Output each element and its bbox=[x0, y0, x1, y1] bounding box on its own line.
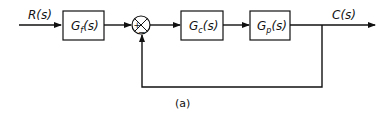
feedback-path bbox=[142, 25, 322, 87]
output-label: C(s) bbox=[332, 8, 356, 22]
block-gp-label: Gp(s) bbox=[257, 19, 287, 35]
input-label: R(s) bbox=[28, 8, 52, 22]
summing-junction: + − bbox=[132, 16, 150, 37]
block-gf-label: Gf(s) bbox=[71, 19, 99, 35]
figure-caption: (a) bbox=[175, 97, 190, 110]
block-diagram: R(s) Gf(s) + − Gc(s) Gp(s) C(s) (a) bbox=[0, 0, 382, 114]
block-gc-label: Gc(s) bbox=[189, 19, 218, 35]
